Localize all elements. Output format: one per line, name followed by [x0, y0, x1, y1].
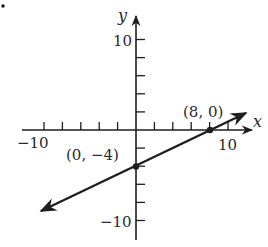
x-min-label: −10 — [17, 134, 49, 152]
point-x-intercept — [207, 127, 213, 133]
x-axis-label: x — [253, 112, 262, 131]
coordinate-plane: y x 10 −10 −10 10 (0, −4) (8, 0) — [0, 0, 268, 247]
y-min-label: −10 — [100, 213, 132, 231]
y-axis-label: y — [117, 6, 128, 25]
point-label-x-intercept: (8, 0) — [183, 103, 223, 121]
corner-dot-icon — [1, 4, 5, 8]
point-label-y-intercept: (0, −4) — [66, 146, 119, 164]
point-y-intercept — [133, 163, 139, 169]
x-max-label: 10 — [218, 136, 237, 154]
y-max-label: 10 — [113, 32, 132, 50]
